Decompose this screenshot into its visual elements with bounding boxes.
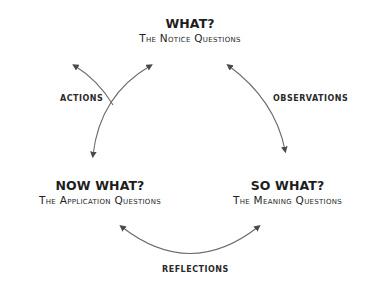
label-reflections: Reflections xyxy=(162,265,229,274)
node-now-what: NOW WHAT? The Application Questions xyxy=(0,178,200,208)
node-now-what-subtitle: The Application Questions xyxy=(0,193,200,208)
node-now-what-title: NOW WHAT? xyxy=(0,178,200,193)
node-so-what-title: SO WHAT? xyxy=(200,178,375,193)
label-observations: Observations xyxy=(273,94,348,103)
node-so-what: SO WHAT? The Meaning Questions xyxy=(200,178,375,208)
node-what-subtitle: The Notice Questions xyxy=(100,31,280,46)
node-so-what-subtitle: The Meaning Questions xyxy=(200,193,375,208)
observations-arrow xyxy=(229,66,285,150)
node-what-title: WHAT? xyxy=(100,16,280,31)
node-what: WHAT? The Notice Questions xyxy=(100,16,280,46)
label-actions: Actions xyxy=(60,94,103,103)
reflections-arrow xyxy=(122,227,258,254)
actions-arrow xyxy=(93,66,150,155)
